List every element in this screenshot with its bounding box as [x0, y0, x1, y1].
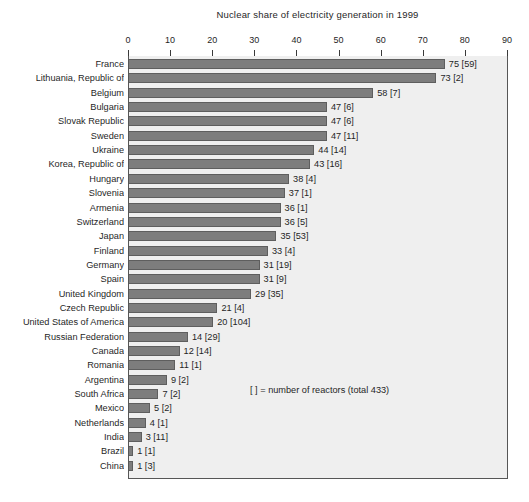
bar: [129, 317, 213, 327]
bar-value-label: 75 [59]: [449, 57, 477, 71]
bar-row: India3 [11]: [0, 430, 529, 444]
bar-category-label: France: [0, 57, 124, 71]
x-axis-tick-label: 60: [376, 35, 386, 45]
bar: [129, 303, 217, 313]
bar-value-label: 73 [2]: [440, 71, 463, 85]
bar: [129, 188, 285, 198]
bar-category-label: Belgium: [0, 86, 124, 100]
bar: [129, 116, 327, 126]
bar-category-label: Lithuania, Republic of: [0, 71, 124, 85]
bar-row: Armenia36 [1]: [0, 201, 529, 215]
bar: [129, 346, 180, 356]
bar-row: France75 [59]: [0, 57, 529, 71]
bar-value-label: 58 [7]: [377, 86, 400, 100]
bar-category-label: Finland: [0, 244, 124, 258]
bar: [129, 274, 260, 284]
bar-category-label: Netherlands: [0, 416, 124, 430]
bar-value-label: 20 [104]: [217, 315, 250, 329]
bar-row: Sweden47 [11]: [0, 129, 529, 143]
bar: [129, 88, 373, 98]
bar: [129, 246, 268, 256]
bar-row: Japan35 [53]: [0, 229, 529, 243]
bar-value-label: 31 [9]: [264, 272, 287, 286]
bar-value-label: 47 [6]: [331, 114, 354, 128]
bar: [129, 360, 175, 370]
bar-value-label: 29 [35]: [255, 287, 283, 301]
bar-row: Czech Republic21 [4]: [0, 301, 529, 315]
x-axis-tick-label: 20: [207, 35, 217, 45]
bar: [129, 332, 188, 342]
bar-value-label: 44 [14]: [318, 143, 346, 157]
bar-category-label: China: [0, 459, 124, 473]
bar-value-label: 47 [11]: [331, 129, 358, 143]
nuclear-share-bar-chart: Nuclear share of electricity generation …: [0, 0, 529, 502]
bar-value-label: 4 [1]: [150, 416, 168, 430]
bar-row: Slovenia37 [1]: [0, 186, 529, 200]
bar: [129, 403, 150, 413]
bar-category-label: United States of America: [0, 315, 124, 329]
bar-value-label: 1 [3]: [137, 459, 155, 473]
bar-value-label: 36 [5]: [285, 215, 308, 229]
bar-category-label: Brazil: [0, 444, 124, 458]
bar-row: Korea, Republic of43 [16]: [0, 157, 529, 171]
x-axis-tick-label: 80: [460, 35, 470, 45]
bar-row: Germany31 [19]: [0, 258, 529, 272]
bar-row: Switzerland36 [5]: [0, 215, 529, 229]
bar-value-label: 1 [1]: [137, 444, 155, 458]
bar-value-label: 11 [1]: [179, 358, 201, 372]
bar: [129, 389, 158, 399]
bar: [129, 73, 436, 83]
bar-value-label: 47 [6]: [331, 100, 354, 114]
bar-category-label: Canada: [0, 344, 124, 358]
bar-value-label: 5 [2]: [154, 401, 172, 415]
chart-title: Nuclear share of electricity generation …: [128, 9, 507, 20]
x-axis-tick-label: 70: [418, 35, 428, 45]
bar-category-label: Spain: [0, 272, 124, 286]
bar-row: Bulgaria47 [6]: [0, 100, 529, 114]
bar-value-label: 31 [19]: [264, 258, 292, 272]
bar-category-label: Sweden: [0, 129, 124, 143]
bar-value-label: 9 [2]: [171, 373, 189, 387]
bar-value-label: 12 [14]: [184, 344, 212, 358]
bar-value-label: 35 [53]: [280, 229, 308, 243]
bar: [129, 217, 281, 227]
bar-row: Romania11 [1]: [0, 358, 529, 372]
bar: [129, 102, 327, 112]
bar: [129, 461, 133, 471]
bar-row: United States of America20 [104]: [0, 315, 529, 329]
bar-value-label: 38 [4]: [293, 172, 316, 186]
bar: [129, 432, 142, 442]
bar-row: Mexico5 [2]: [0, 401, 529, 415]
bar-category-label: Bulgaria: [0, 100, 124, 114]
bar-category-label: Ukraine: [0, 143, 124, 157]
bar-value-label: 33 [4]: [272, 244, 295, 258]
x-axis-tick-label: 50: [334, 35, 344, 45]
bar-category-label: Hungary: [0, 172, 124, 186]
bar: [129, 446, 133, 456]
bar-row: Slovak Republic47 [6]: [0, 114, 529, 128]
bar-value-label: 21 [4]: [221, 301, 244, 315]
x-axis-tick-label: 90: [502, 35, 512, 45]
bar-value-label: 14 [29]: [192, 330, 220, 344]
bar: [129, 418, 146, 428]
bar-value-label: 3 [11]: [146, 430, 168, 444]
bar-category-label: Korea, Republic of: [0, 157, 124, 171]
bar-category-label: Armenia: [0, 201, 124, 215]
bar-category-label: South Africa: [0, 387, 124, 401]
bar-category-label: Czech Republic: [0, 301, 124, 315]
bar: [129, 260, 260, 270]
bar: [129, 289, 251, 299]
bar-rows: France75 [59]Lithuania, Republic of73 [2…: [0, 56, 529, 479]
bar-category-label: United Kingdom: [0, 287, 124, 301]
bar-value-label: 43 [16]: [314, 157, 342, 171]
bar-value-label: 7 [2]: [162, 387, 180, 401]
bar-row: United Kingdom29 [35]: [0, 287, 529, 301]
bar: [129, 231, 276, 241]
x-axis-tick-label: 10: [165, 35, 175, 45]
bar-row: Ukraine44 [14]: [0, 143, 529, 157]
bar-row: Netherlands4 [1]: [0, 416, 529, 430]
x-axis: 0102030405060708090: [128, 28, 507, 57]
bar-value-label: 36 [1]: [285, 201, 308, 215]
bar-category-label: Romania: [0, 358, 124, 372]
bar-category-label: India: [0, 430, 124, 444]
